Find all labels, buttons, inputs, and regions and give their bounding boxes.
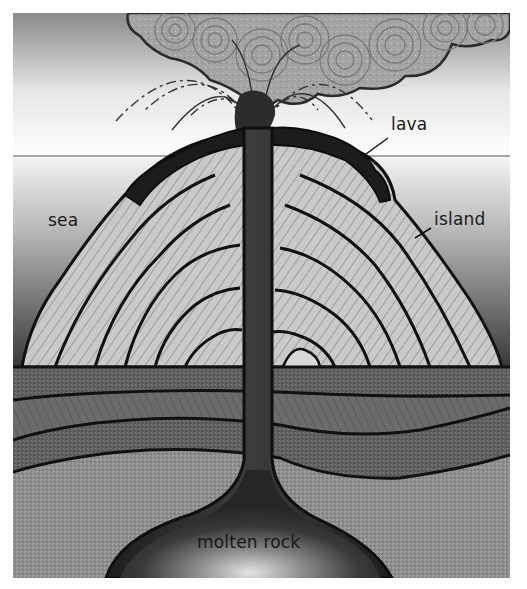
- volcano-illustration: [0, 0, 527, 589]
- volcano-diagram: lava sea island molten rock: [0, 0, 527, 589]
- label-sea: sea: [48, 210, 78, 230]
- label-lava: lava: [391, 114, 427, 134]
- label-molten-rock: molten rock: [197, 532, 300, 552]
- label-island: island: [434, 209, 486, 229]
